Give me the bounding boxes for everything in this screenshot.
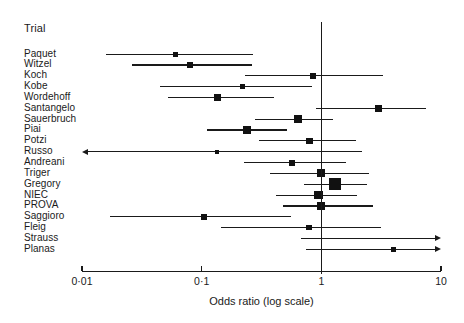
- confidence-interval-line: [160, 86, 312, 87]
- confidence-interval-line: [106, 54, 253, 55]
- trial-label: Wordehoff: [24, 92, 70, 102]
- x-axis-tick: [440, 266, 441, 271]
- trial-label: Russo: [24, 146, 53, 156]
- trial-label: Saggioro: [24, 211, 64, 221]
- point-estimate-marker: [306, 225, 312, 231]
- confidence-interval-line: [306, 249, 436, 250]
- confidence-interval-line: [110, 216, 292, 217]
- point-estimate-marker: [215, 150, 219, 154]
- point-estimate-marker: [306, 138, 313, 145]
- trial-label: Potzi: [24, 135, 46, 145]
- trial-label: Witzel: [24, 59, 52, 69]
- point-estimate-marker: [243, 126, 251, 134]
- trial-label: Kobe: [24, 81, 48, 91]
- ci-arrow-right-icon: [435, 246, 441, 252]
- ci-arrow-right-icon: [435, 235, 441, 241]
- trial-label: Planas: [24, 244, 55, 254]
- forest-plot: Trial PaquetWitzelKochKobeWordehoffSanta…: [0, 0, 464, 323]
- trial-label: Piai: [24, 124, 41, 134]
- point-estimate-marker: [329, 178, 341, 190]
- point-estimate-marker: [201, 214, 207, 220]
- trial-label: PROVA: [24, 200, 59, 210]
- point-estimate-marker: [187, 62, 194, 69]
- trial-label: Gregory: [24, 179, 60, 189]
- null-reference-line: [321, 22, 323, 274]
- x-axis-line: [82, 271, 441, 272]
- trial-label: Santangelo: [24, 103, 75, 113]
- point-estimate-marker: [240, 84, 245, 89]
- x-axis-tick-label: 1: [318, 275, 324, 287]
- point-estimate-marker: [310, 73, 316, 79]
- x-axis-tick-label: 0·01: [71, 275, 92, 287]
- point-estimate-marker: [375, 105, 382, 112]
- x-axis-tick: [81, 266, 82, 271]
- point-estimate-marker: [289, 160, 295, 166]
- confidence-interval-line: [283, 205, 373, 206]
- x-axis-tick-label: 0·1: [194, 275, 209, 287]
- x-axis-title: Odds ratio (log scale): [209, 295, 314, 307]
- trial-label: Strauss: [24, 233, 58, 243]
- trial-label: Triger: [24, 168, 50, 178]
- x-axis-tick: [321, 266, 322, 271]
- trial-label: NIEC: [24, 190, 48, 200]
- x-axis-tick-label: 10: [435, 275, 447, 287]
- trial-label: Paquet: [24, 49, 56, 59]
- confidence-interval-line: [316, 108, 426, 109]
- x-axis-tick: [201, 266, 202, 271]
- trial-label: Koch: [24, 70, 47, 80]
- confidence-interval-line: [221, 227, 381, 228]
- trial-label: Sauerbruch: [24, 114, 76, 124]
- ci-arrow-left-icon: [82, 149, 88, 155]
- trial-label: Andreani: [24, 157, 64, 167]
- point-estimate-marker: [173, 52, 178, 57]
- trial-label: Fleig: [24, 222, 46, 232]
- point-estimate-marker: [391, 247, 396, 252]
- point-estimate-marker: [214, 94, 221, 101]
- point-estimate-marker: [294, 115, 302, 123]
- column-header-trial: Trial: [24, 22, 45, 34]
